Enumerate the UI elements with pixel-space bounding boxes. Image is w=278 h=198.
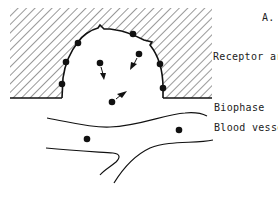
receptor-tissue xyxy=(10,8,212,98)
diagram-canvas xyxy=(0,0,278,198)
panel-label: A. xyxy=(262,12,275,23)
free-drug-molecules xyxy=(97,51,143,106)
blood-drug-molecules xyxy=(84,127,183,143)
blood-vessel xyxy=(46,113,213,183)
biophase-label: Biophase xyxy=(214,102,265,113)
receptor-area-label: Receptor area xyxy=(213,51,278,62)
blood-vessel-label: Blood vessel xyxy=(214,122,278,133)
